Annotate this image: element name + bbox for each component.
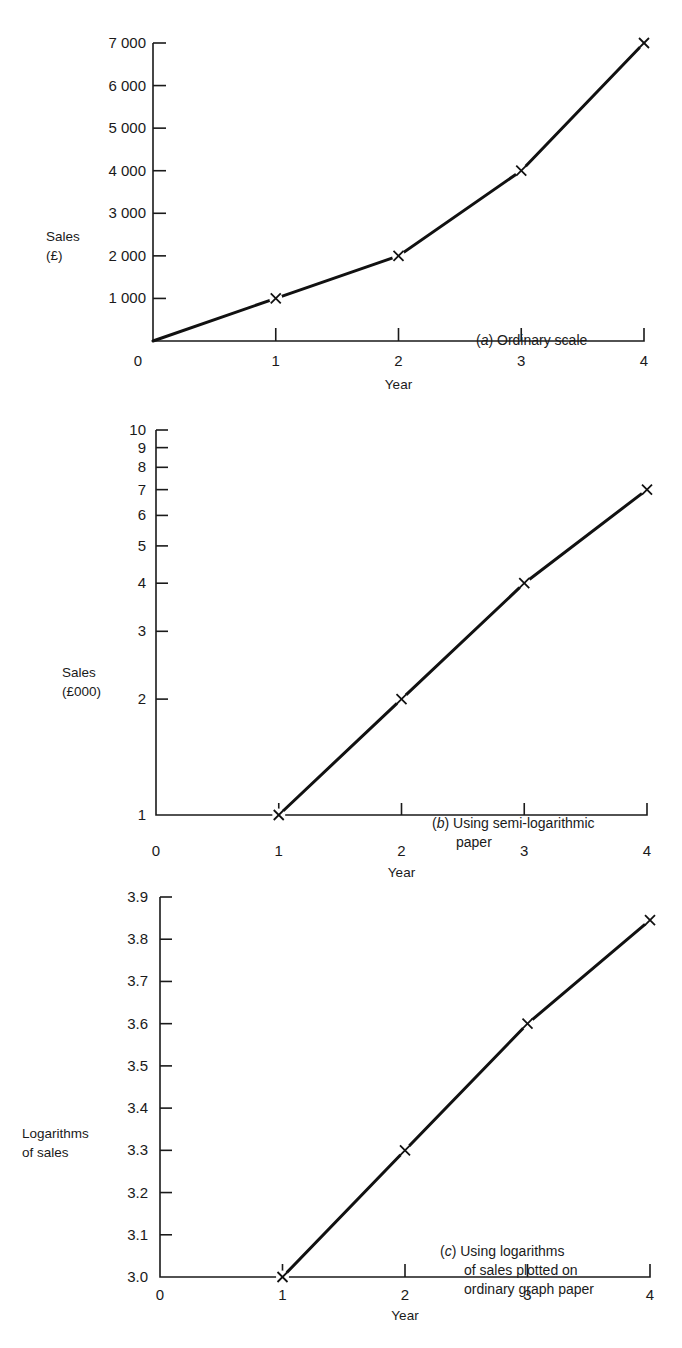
chart-c-ytick-label: 3.8: [127, 930, 148, 947]
chart-c-data-point-marker: [644, 914, 657, 927]
chart-a-xtick-label: 3: [517, 352, 525, 369]
chart-c-xaxis-title: Year: [391, 1308, 419, 1323]
chart-a-xtick-label: 4: [640, 352, 648, 369]
chart-b-data-point-marker: [518, 577, 531, 590]
chart-a-ytick-label: 7 000: [108, 34, 146, 51]
chart-a-data-point-marker: [515, 164, 528, 177]
chart-c-ytick-label: 3.9: [127, 888, 148, 905]
chart-a-ytick-label: 4 000: [108, 162, 146, 179]
chart-b-series-line: [279, 490, 647, 815]
chart-c-yaxis-title: Logarithmsof sales: [22, 1126, 89, 1160]
chart-c-data-point-marker: [521, 1017, 534, 1030]
chart-b-ytick-label: 6: [138, 506, 146, 523]
chart-b-data-point-marker: [395, 693, 408, 706]
chart-a-ordinary-scale: 1 0002 0003 0004 0005 0006 0007 00001234…: [46, 34, 651, 392]
chart-a-data-point-marker: [638, 37, 651, 50]
chart-b-ytick-label: 3: [138, 622, 146, 639]
chart-b-ytick-label: 2: [138, 690, 146, 707]
chart-b-data-point-marker: [641, 483, 654, 496]
chart-a-data-point-marker: [392, 249, 405, 262]
chart-b-ytick-label: 7: [138, 481, 146, 498]
chart-b-ytick-label: 1: [138, 806, 146, 823]
chart-a-ytick-label: 6 000: [108, 77, 146, 94]
chart-b-caption: (b) Using semi-logarithmicpaper: [432, 815, 595, 850]
chart-b-semi-log: 1234567891001234YearSales(£000)(b) Using…: [62, 421, 654, 880]
chart-a-ytick-label: 1 000: [108, 289, 146, 306]
chart-b-ytick-label: 10: [129, 421, 146, 438]
chart-b-ytick-label: 5: [138, 537, 146, 554]
chart-b-ytick-label: 4: [138, 574, 146, 591]
chart-a-xtick-label: 2: [394, 352, 402, 369]
chart-b-yaxis-title: Sales(£000): [62, 665, 101, 699]
chart-b-data-point-marker: [272, 809, 285, 822]
chart-b-ytick-label: 9: [138, 439, 146, 456]
chart-c-xtick-label: 4: [646, 1286, 654, 1303]
chart-c-ytick-label: 3.6: [127, 1015, 148, 1032]
chart-c-ytick-label: 3.2: [127, 1184, 148, 1201]
chart-a-series-line: [153, 43, 644, 341]
chart-c-data-point-marker: [276, 1271, 289, 1284]
chart-b-xtick-label: 1: [275, 842, 283, 859]
chart-c-ytick-label: 3.7: [127, 972, 148, 989]
chart-a-axes: [153, 43, 644, 341]
chart-c-ytick-label: 3.0: [127, 1268, 148, 1285]
chart-c-ytick-label: 3.5: [127, 1057, 148, 1074]
chart-a-ytick-label: 2 000: [108, 247, 146, 264]
chart-a-xtick-label: 0: [134, 352, 142, 369]
chart-b-xtick-label: 2: [397, 842, 405, 859]
chart-c-log-values: 3.03.13.23.33.43.53.63.73.83.901234YearL…: [22, 888, 657, 1323]
chart-b-xaxis-title: Year: [388, 865, 416, 880]
chart-a-caption: (a) Ordinary scale: [476, 332, 588, 348]
chart-a-xaxis-title: Year: [385, 377, 413, 392]
chart-a-ytick-label: 5 000: [108, 119, 146, 136]
chart-b-ytick-label: 8: [138, 458, 146, 475]
chart-c-ytick-label: 3.3: [127, 1141, 148, 1158]
chart-a-yaxis-title: Sales(£): [46, 229, 80, 263]
chart-c-data-point-marker: [399, 1144, 412, 1157]
chart-c-caption: (c) Using logarithmsof sales plotted ono…: [440, 1243, 594, 1297]
chart-c-axes: [160, 897, 650, 1277]
chart-b-axes: [156, 430, 647, 815]
chart-b-xtick-label: 4: [643, 842, 651, 859]
chart-c-xtick-label: 0: [156, 1286, 164, 1303]
chart-c-xtick-label: 2: [401, 1286, 409, 1303]
chart-a-ytick-label: 3 000: [108, 204, 146, 221]
chart-a-data-point-marker: [269, 292, 282, 305]
chart-b-xtick-label: 3: [520, 842, 528, 859]
chart-b-xtick-label: 0: [152, 842, 160, 859]
chart-c-series-line: [283, 920, 651, 1277]
chart-c-ytick-label: 3.4: [127, 1099, 148, 1116]
chart-c-ytick-label: 3.1: [127, 1226, 148, 1243]
chart-c-xtick-label: 1: [278, 1286, 286, 1303]
figure-canvas: 1 0002 0003 0004 0005 0006 0007 00001234…: [0, 0, 682, 1348]
chart-a-xtick-label: 1: [272, 352, 280, 369]
